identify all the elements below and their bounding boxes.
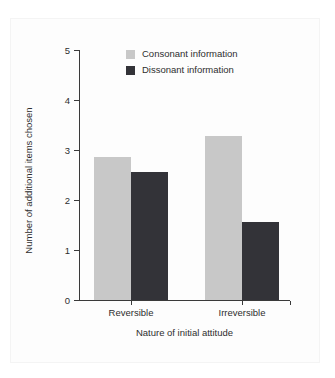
x-axis-tick — [242, 301, 243, 305]
y-axis-line — [79, 50, 80, 301]
x-axis-end-tick — [290, 301, 291, 305]
x-axis-line — [79, 300, 290, 301]
y-axis-tick: 3 — [74, 150, 79, 151]
y-axis-title: Number of additional items chosen — [23, 81, 34, 281]
y-axis-tick-label: 2 — [65, 196, 70, 206]
y-axis-tick-label: 4 — [65, 96, 70, 106]
legend-item: Consonant information — [126, 46, 238, 62]
legend-item: Dissonant information — [126, 62, 238, 78]
x-axis-category-label: Irreversible — [219, 307, 266, 318]
y-axis-tick-label: 5 — [65, 46, 70, 56]
y-axis-tick: 2 — [74, 200, 79, 201]
x-axis-title: Nature of initial attitude — [79, 327, 290, 338]
bar — [205, 136, 242, 300]
bar — [242, 222, 279, 300]
legend-label: Consonant information — [142, 49, 238, 59]
chart-legend: Consonant informationDissonant informati… — [126, 46, 238, 78]
x-axis-tick — [131, 301, 132, 305]
legend-label: Dissonant information — [142, 65, 234, 75]
bar-chart-figure: 012345 ReversibleIrreversible Number of … — [0, 0, 335, 378]
y-axis-tick: 0 — [74, 300, 79, 301]
legend-swatch-icon — [126, 50, 135, 59]
y-axis-tick-label: 3 — [65, 146, 70, 156]
x-axis-category-label: Reversible — [109, 307, 154, 318]
y-axis-tick-label: 1 — [65, 246, 70, 256]
bar — [94, 157, 131, 300]
bar — [131, 172, 168, 300]
y-axis-tick: 5 — [74, 50, 79, 51]
y-axis-tick: 1 — [74, 250, 79, 251]
legend-swatch-icon — [126, 66, 135, 75]
y-axis-tick: 4 — [74, 100, 79, 101]
y-axis-tick-label: 0 — [65, 296, 70, 306]
